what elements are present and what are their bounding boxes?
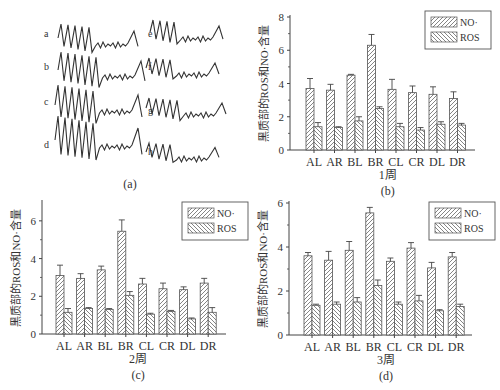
x-tick-label-al: AL (306, 155, 322, 169)
bar-no-dl (429, 94, 437, 150)
x-tick-label-dl: DL (429, 155, 445, 169)
x-tick-label-cl: CL (139, 339, 154, 353)
panel-a-caption: (a) (123, 177, 136, 191)
legend-swatch-ros (435, 223, 461, 233)
waveform-trace-h (146, 143, 219, 162)
x-tick-label-dl: DL (428, 340, 444, 354)
legend: NO·ROS (429, 202, 495, 240)
bar-ros-ar (85, 309, 93, 334)
x-tick-label-ar: AR (324, 340, 341, 354)
bar-ros-bl (353, 302, 361, 335)
y-tick-label: 2 (278, 285, 284, 297)
bar-no-dr (450, 98, 458, 150)
legend-swatch-no (188, 208, 214, 218)
trace-label-c: c (44, 96, 49, 107)
x-tick-label-ar: AR (326, 155, 343, 169)
bar-ros-br (374, 286, 382, 336)
panel-c-chart-week2: 0246黑质部的ROS和NO·含量ALARBLBRCLCRDLDR2周(c)NO… (9, 200, 248, 382)
bar-ros-dr (456, 306, 464, 335)
bar-no-cl (138, 284, 146, 334)
figure-canvas: abcdefgh (a) 02468黑质部的ROS和NO·含量ALARBLBRC… (0, 0, 500, 390)
y-tick-label: 6 (279, 44, 285, 56)
bar-no-cr (409, 93, 417, 150)
bar-no-al (56, 276, 64, 334)
x-tick-label-cr: CR (408, 155, 424, 169)
bar-no-ar (325, 260, 333, 335)
bar-no-al (304, 256, 312, 335)
x-tick-label-bl: BL (98, 339, 113, 353)
bar-no-cr (407, 248, 415, 335)
bar-no-br (118, 231, 126, 334)
trace-label-e: e (148, 28, 153, 39)
bar-no-dr (200, 283, 208, 334)
y-tick-label: 4 (31, 253, 37, 265)
bar-ros-ar (335, 128, 343, 150)
bar-ros-bl (105, 309, 113, 334)
legend-swatch-no (435, 208, 461, 218)
x-tick-label-cr: CR (159, 339, 175, 353)
bar-no-al (306, 88, 314, 150)
x-tick-label-al: AL (304, 340, 320, 354)
y-tick-label: 0 (279, 144, 285, 156)
bar-no-bl (97, 270, 105, 334)
x-tick-label-bl: BL (346, 340, 361, 354)
y-tick-label: 0 (278, 329, 284, 341)
waveform-trace-d (55, 116, 142, 160)
panel-caption: (b) (381, 184, 395, 198)
trace-label-h: h (148, 146, 153, 157)
waveform-trace-b (58, 52, 145, 88)
y-axis-label: 黑质部的ROS和NO·含量 (257, 25, 270, 143)
bar-ros-al (64, 312, 72, 334)
legend-label-no: NO· (217, 208, 235, 219)
bar-no-dl (180, 290, 188, 334)
bar-ros-cl (146, 314, 154, 334)
legend-label-no: NO· (460, 17, 478, 28)
bar-no-br (366, 213, 374, 335)
bar-no-bl (347, 75, 355, 150)
x-tick-label-dr: DR (448, 340, 465, 354)
legend-label-ros: ROS (460, 32, 479, 43)
x-axis-label: 2周 (129, 352, 147, 366)
y-axis-label: 黑质部的ROS和NO·含量 (9, 209, 22, 327)
x-tick-label-br: BR (367, 155, 383, 169)
bar-ros-al (314, 127, 322, 150)
bar-ros-cr (167, 311, 175, 334)
bar-ros-ar (333, 304, 341, 335)
bar-ros-br (126, 295, 134, 334)
y-tick-label: 6 (278, 197, 284, 209)
x-tick-label-br: BR (118, 339, 134, 353)
panel-b-chart-week1: 02468黑质部的ROS和NO·含量ALARBLBRCLCRDLDR1周(b)N… (257, 11, 491, 198)
bar-no-dr (448, 257, 456, 335)
waveform-trace-c (55, 85, 142, 123)
panel-d-chart-week3: 0246黑质部的ROS和NO·含量ALARBLBRCLCRDLDR3周(d)NO… (256, 197, 495, 383)
trace-label-g: g (148, 105, 153, 116)
bar-no-cr (159, 289, 167, 334)
bar-ros-dl (188, 319, 196, 334)
bar-no-cl (388, 89, 396, 150)
bar-ros-cr (417, 130, 425, 150)
trace-labels: abcdefgh (44, 28, 153, 157)
bar-ros-dr (458, 125, 466, 150)
x-tick-label-dr: DR (449, 155, 466, 169)
bar-no-ar (77, 278, 85, 334)
legend-swatch-ros (188, 223, 214, 233)
bar-no-dl (428, 268, 436, 335)
legend-label-ros: ROS (217, 223, 236, 234)
bar-ros-al (312, 305, 320, 335)
waveform-trace-g (146, 98, 226, 121)
y-tick-label: 8 (279, 11, 285, 23)
x-axis-label: 1周 (379, 168, 397, 182)
trace-label-d: d (44, 139, 49, 150)
x-axis-label: 3周 (377, 353, 395, 367)
legend-swatch-ros (431, 32, 457, 42)
legend-label-no: NO· (464, 208, 482, 219)
panel-caption: (d) (379, 369, 393, 383)
x-tick-label-cr: CR (407, 340, 423, 354)
trace-label-b: b (44, 61, 49, 72)
bar-ros-br (376, 108, 384, 150)
bar-ros-cr (415, 301, 423, 335)
y-tick-label: 4 (278, 241, 284, 253)
legend: NO·ROS (182, 202, 248, 240)
waveform-trace-f (146, 58, 219, 79)
bar-no-br (368, 45, 376, 150)
